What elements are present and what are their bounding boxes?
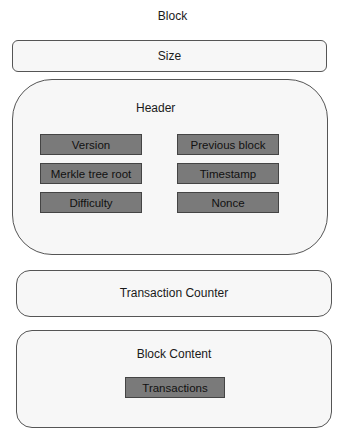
header-panel: Header Version Previous block Merkle tre… — [12, 79, 328, 255]
version-field: Version — [40, 134, 142, 155]
previous-block-field: Previous block — [177, 134, 279, 155]
merkle-tree-root-field: Merkle tree root — [40, 163, 142, 184]
diagram-title: Block — [0, 9, 345, 23]
transactions-field: Transactions — [125, 377, 225, 398]
size-label: Size — [13, 49, 326, 63]
nonce-field: Nonce — [177, 192, 279, 213]
transaction-counter-label: Transaction Counter — [17, 286, 331, 300]
block-content-label: Block Content — [17, 347, 331, 361]
transaction-counter-panel: Transaction Counter — [16, 270, 332, 317]
difficulty-field: Difficulty — [40, 192, 142, 213]
timestamp-field: Timestamp — [177, 163, 279, 184]
header-label: Header — [13, 101, 327, 115]
size-panel: Size — [12, 40, 327, 72]
block-content-panel: Block Content Transactions — [16, 330, 332, 428]
